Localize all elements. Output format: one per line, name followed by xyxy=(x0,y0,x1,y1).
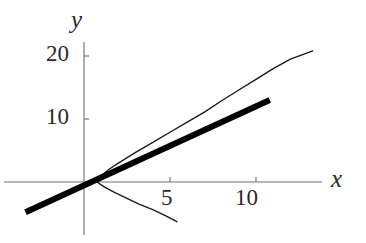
x-tick-label-5: 5 xyxy=(161,186,173,209)
y-tick-label-10: 10 xyxy=(46,105,69,128)
y-axis-label: y xyxy=(71,7,82,32)
x-axis-label: x xyxy=(331,166,342,191)
y-tick-label-20: 20 xyxy=(46,42,69,65)
x-tick-label-10: 10 xyxy=(235,186,258,209)
plot-figure: 20 10 5 10 x y xyxy=(0,0,366,243)
